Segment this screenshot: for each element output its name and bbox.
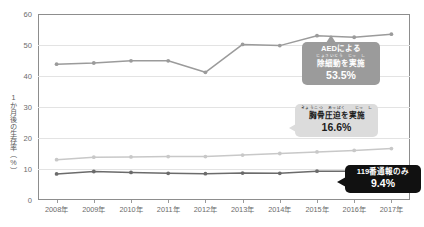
y-tick-label: 40 <box>12 72 32 81</box>
x-tick-mark <box>94 200 95 203</box>
x-tick-mark <box>205 200 206 203</box>
x-tick-label: 2017年 <box>380 204 403 214</box>
x-tick-mark <box>57 200 58 203</box>
callout-aed-line1: AEDによる <box>307 44 375 54</box>
series-marker <box>352 35 356 39</box>
series-marker <box>92 155 96 159</box>
x-tick-mark <box>317 200 318 203</box>
series-marker <box>92 170 96 174</box>
y-tick-label: 20 <box>12 134 32 143</box>
series-line <box>57 149 392 160</box>
series-marker <box>315 150 319 154</box>
series-marker <box>166 171 170 175</box>
x-tick-label: 2013年 <box>231 204 254 214</box>
callout-chest-compression: きょうこつ あっぱく じっ し 胸骨圧迫を実施 16.6% <box>295 104 378 137</box>
y-tick-label: 30 <box>12 103 32 112</box>
series-marker <box>241 171 245 175</box>
series-marker <box>55 62 59 66</box>
callout-chest-tail <box>289 124 296 132</box>
series-marker <box>278 171 282 175</box>
series-marker <box>55 158 59 162</box>
series-marker <box>241 153 245 157</box>
x-tick-label: 2008年 <box>45 204 68 214</box>
series-marker <box>129 171 133 175</box>
callout-aed-line2: じょさいどう じっ し 除細動を実施 <box>307 54 375 69</box>
x-tick-label: 2016年 <box>343 204 366 214</box>
series-marker <box>390 147 394 151</box>
series-marker <box>55 172 59 176</box>
series-marker <box>315 169 319 173</box>
series-marker <box>278 44 282 48</box>
x-tick-mark <box>168 200 169 203</box>
series-marker <box>204 172 208 176</box>
callout-call-value: 9.4% <box>350 177 416 190</box>
y-tick-label: 60 <box>12 10 32 19</box>
x-tick-mark <box>243 200 244 203</box>
series-marker <box>352 149 356 153</box>
x-tick-label: 2012年 <box>194 204 217 214</box>
callout-chest-line1-text: 胸骨圧迫を実施 <box>309 111 365 120</box>
x-tick-label: 2009年 <box>82 204 105 214</box>
series-marker <box>241 42 245 46</box>
series-marker <box>315 34 319 38</box>
series-marker <box>166 59 170 63</box>
x-tick-label: 2014年 <box>268 204 291 214</box>
callout-emergency-call: 119番通報のみ 9.4% <box>345 165 421 193</box>
callout-aed-tail <box>326 35 336 43</box>
series-marker <box>129 155 133 159</box>
x-tick-mark <box>354 200 355 203</box>
callout-aed: AEDによる じょさいどう じっ し 除細動を実施 53.5% <box>302 42 380 85</box>
x-tick-mark <box>131 200 132 203</box>
x-tick-mark <box>391 200 392 203</box>
callout-call-line1: 119番通報のみ <box>350 167 416 177</box>
series-marker <box>92 61 96 65</box>
callout-chest-value: 16.6% <box>300 121 373 134</box>
series-marker <box>166 155 170 159</box>
x-tick-label: 2015年 <box>305 204 328 214</box>
series-marker <box>390 32 394 36</box>
y-tick-label: 50 <box>12 41 32 50</box>
series-marker <box>129 59 133 63</box>
callout-call-tail <box>337 177 346 187</box>
x-tick-mark <box>280 200 281 203</box>
survival-rate-line-chart: 1か月後の生存率（%） 0102030405060 2008年2009年2010… <box>0 0 424 227</box>
x-tick-label: 2010年 <box>119 204 142 214</box>
callout-aed-value: 53.5% <box>307 69 375 82</box>
x-tick-label: 2011年 <box>157 204 180 214</box>
series-marker <box>204 155 208 159</box>
series-marker <box>204 70 208 74</box>
callout-chest-line1: きょうこつ あっぱく じっ し 胸骨圧迫を実施 <box>300 106 373 121</box>
series-marker <box>278 152 282 156</box>
callout-aed-line2-text: 除細動を実施 <box>317 59 365 68</box>
y-tick-label: 0 <box>12 196 32 205</box>
y-tick-label: 10 <box>12 165 32 174</box>
series-line <box>57 171 392 174</box>
